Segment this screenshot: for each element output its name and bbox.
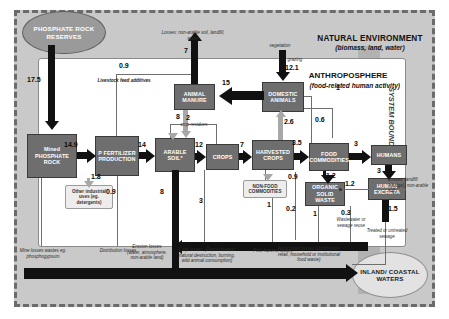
line-osw-down xyxy=(318,206,319,244)
node-humans: HUMANS xyxy=(371,145,407,165)
value-crops-to-harvested: 7 xyxy=(240,141,244,148)
node-non-food-commodities: NON-FOOD COMMODITIES xyxy=(243,180,287,198)
value-excreta-to-waters: 1.5 xyxy=(388,205,398,212)
value-mined-other-ind: 1.8 xyxy=(91,173,101,180)
line-feed-additives-h xyxy=(116,74,194,75)
value-distribution-losses: 0.9 xyxy=(106,188,116,195)
value-domestic-to-food: 0.6 xyxy=(315,116,325,123)
value-reserves-to-mined: 17.5 xyxy=(27,76,41,83)
node-phosphate-rock-reserves: PHOSPHATE ROCK RESERVES xyxy=(22,11,106,54)
value-animals-to-manure: 15 xyxy=(222,79,230,86)
anthroposphere-title: ANTHROPOSPHERE xyxy=(296,72,400,81)
value-harvested-to-food: 3.5 xyxy=(292,139,302,146)
caption-crop-losses: Crop losses: (Pests/disease/ natural des… xyxy=(176,247,238,264)
arrowhead-crops-to-harvested xyxy=(243,150,252,164)
arrowhead-harvested-to-food xyxy=(300,150,309,164)
value-food-to-humans: 3 xyxy=(354,140,358,147)
value-erosion-from-arable: 8 xyxy=(160,188,164,195)
node-harvested-crops: HARVESTED CROPS xyxy=(252,140,294,170)
node-organic-solid-waste: ORGANIC SOLID WASTE xyxy=(305,182,345,206)
value-fert-to-arable: 14 xyxy=(138,141,146,148)
line-crop-losses xyxy=(204,170,205,246)
node-animal-manure: ANIMAL MANURE xyxy=(174,84,215,110)
value-food-to-osw: 1.2 xyxy=(326,172,336,179)
value-grazing: 12.1 xyxy=(285,64,299,71)
caption-erosion-losses: Erosion losses (water, atmosphere, non-a… xyxy=(126,244,168,261)
arrowhead-grazing-to-animals xyxy=(276,72,290,81)
node-inland-coastal-waters: INLAND/ COASTAL WATERS xyxy=(352,252,428,298)
caption-excreta-losses: Losses: landfill (sludge), non-arable so… xyxy=(388,177,432,194)
value-osw-to-arable: 0.2 xyxy=(286,205,296,212)
value-excreta-losses: 1.2 xyxy=(345,180,355,187)
anthroposphere-subtitle: (food-related human activity) xyxy=(300,82,400,89)
arrow-manure-losses-up xyxy=(191,41,198,84)
caption-vegetation: vegetation xyxy=(258,43,302,49)
line-animals-loop-h xyxy=(304,108,332,109)
natural-environment-title: NATURAL ENVIRONMENT xyxy=(300,34,440,43)
line-domestic-to-food-h xyxy=(304,96,312,97)
dot-excreta-losses xyxy=(339,188,342,191)
arrowhead-bottom-to-waters xyxy=(346,264,358,282)
value-crop-residues: 2 xyxy=(186,114,190,121)
arrowhead-harvested-to-animals xyxy=(276,110,286,117)
arrowhead-crop-residues xyxy=(168,133,178,140)
value-harvested-to-animals: 2.6 xyxy=(284,118,294,125)
caption-losses-nonarable: Losses: non-arable soil, landfill, water xyxy=(159,30,227,41)
caption-sewage: Treated or untreated sewage xyxy=(366,228,408,239)
value-manure-losses: 7 xyxy=(184,47,188,54)
line-domestic-to-food-v xyxy=(311,96,312,143)
line-postharvest-losses xyxy=(272,198,273,246)
node-crops: CROPS xyxy=(206,144,239,170)
arrowhead-food-to-humans xyxy=(362,150,371,164)
caption-grazing: grazing xyxy=(280,57,310,63)
arrowhead-mined-to-fert xyxy=(87,149,96,163)
arrowhead-mined-to-otherind xyxy=(84,181,94,188)
arrow-food-to-humans xyxy=(349,153,362,160)
phosphorus-flow-diagram: NATURAL ENVIRONMENT (biomass, land, wate… xyxy=(0,0,449,319)
value-osw-out: 1 xyxy=(313,210,317,217)
arrowhead-harvested-to-nonfood xyxy=(263,174,273,181)
arrowhead-animals-to-manure xyxy=(219,87,232,105)
arrowhead-fert-to-arable xyxy=(146,149,155,163)
value-manure-to-arable: 8 xyxy=(176,113,180,120)
value-humans-to-excreta: 3 xyxy=(377,167,381,174)
arrow-harvested-to-animals xyxy=(278,117,283,140)
value-arable-to-crops: 12 xyxy=(195,141,203,148)
value-mined-to-fert: 14.9 xyxy=(64,141,78,148)
arrow-animals-to-manure xyxy=(232,91,264,100)
node-food-commodities: FOOD COMMODITIES xyxy=(309,143,349,171)
arrowhead-arable-to-crops xyxy=(197,150,206,164)
natural-environment-subtitle: (biomass, land, water) xyxy=(300,44,440,51)
caption-livestock-feed: Livestock feed additives xyxy=(74,78,174,84)
arrowhead-manure-to-arable xyxy=(181,131,191,138)
arrow-fert-to-arable xyxy=(139,152,146,159)
value-crop-losses: 3 xyxy=(199,197,203,204)
value-postharvest-losses: 1 xyxy=(267,201,271,208)
caption-wastewater-reuse: Wastewater or sewage reuse xyxy=(331,217,371,228)
caption-crop-residues: crop residues xyxy=(172,122,216,128)
node-domestic-animals: DOMESTIC ANIMALS xyxy=(262,82,304,112)
arrow-reserves-to-mined xyxy=(48,45,55,121)
node-p-fertilizer-production: P FERTILIZER PRODUCTION xyxy=(95,136,139,176)
value-wastewater-reuse: 0.3 xyxy=(341,209,351,216)
line-animals-loop-v xyxy=(332,108,333,138)
line-crop-residues-right xyxy=(216,124,217,144)
arrow-mined-to-fert xyxy=(77,152,87,159)
value-livestock-feed: 0.9 xyxy=(119,62,129,69)
line-mine-losses xyxy=(41,178,42,246)
line-distribution-losses xyxy=(117,176,118,246)
caption-mine-losses: Mine losses wastes eg. phosphogypsum xyxy=(14,248,72,259)
value-harvested-to-nonfood: 0.9 xyxy=(288,173,298,180)
arrowhead-reserves-to-mined xyxy=(45,121,59,130)
value-animals-extra: 1 xyxy=(336,84,340,91)
caption-foodchain-losses: Food chain losses (distribution, retail,… xyxy=(276,246,342,263)
node-arable-soil: ARABLE SOIL* xyxy=(155,138,195,172)
arrow-bottom-to-waters xyxy=(24,268,346,279)
